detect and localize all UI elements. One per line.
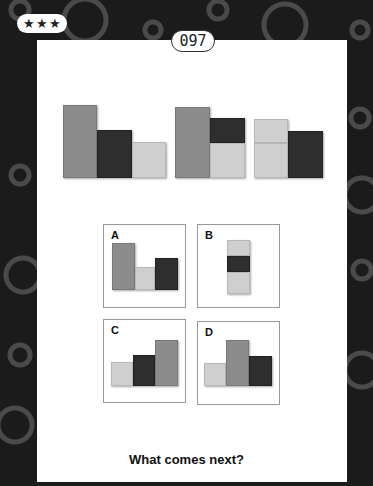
dark-block bbox=[210, 118, 245, 143]
medium-block bbox=[175, 107, 210, 178]
dark-block bbox=[97, 130, 132, 178]
light-block bbox=[227, 240, 250, 256]
option-label: B bbox=[205, 229, 213, 241]
dark-block bbox=[288, 131, 323, 178]
light-block bbox=[227, 272, 250, 294]
light-block bbox=[254, 119, 288, 143]
option-label: D bbox=[205, 326, 213, 338]
option-label: A bbox=[111, 229, 119, 241]
light-block bbox=[254, 143, 288, 178]
dark-block bbox=[249, 356, 272, 386]
difficulty-badge: ★★★ bbox=[17, 14, 67, 33]
medium-block bbox=[63, 105, 97, 178]
light-block bbox=[111, 362, 133, 386]
medium-block bbox=[155, 340, 178, 386]
option-label: C bbox=[111, 324, 119, 336]
medium-block bbox=[226, 340, 249, 386]
light-block bbox=[204, 363, 226, 386]
question-text: What comes next? bbox=[0, 452, 373, 467]
medium-block bbox=[112, 243, 135, 290]
dark-block bbox=[155, 258, 178, 290]
light-block bbox=[132, 142, 166, 178]
dark-block bbox=[227, 256, 250, 272]
light-block bbox=[210, 143, 245, 178]
puzzle-number-badge: 097 bbox=[171, 30, 215, 52]
dark-block bbox=[133, 355, 155, 386]
light-block bbox=[135, 267, 155, 290]
